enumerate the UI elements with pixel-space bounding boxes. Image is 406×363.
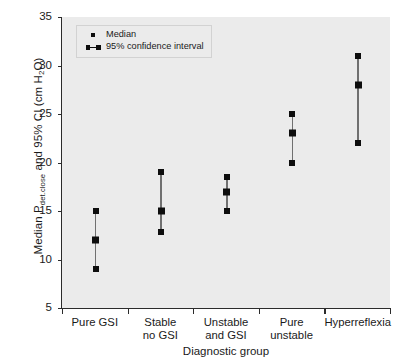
ci-lower-marker	[224, 208, 230, 214]
ci-lower-marker	[289, 160, 295, 166]
confidence-interval-line	[357, 56, 359, 143]
y-tick-label: 30	[26, 60, 52, 72]
ci-upper-marker	[93, 208, 99, 214]
y-axis-line	[61, 17, 62, 309]
data-point-group	[292, 17, 294, 308]
y-tick-label-group: 5101520253035	[26, 0, 52, 363]
x-category-label: Pure GSI	[62, 316, 128, 329]
data-point-group	[95, 17, 97, 308]
x-tick-mark	[62, 309, 63, 314]
median-marker	[158, 208, 165, 215]
x-tick-mark	[390, 309, 391, 314]
x-tick-mark	[128, 309, 129, 314]
x-category-label: Unstableand GSI	[193, 316, 259, 341]
x-tick-mark	[259, 309, 260, 314]
legend-item-confidence-interval: 95% confidence interval	[82, 41, 204, 53]
plot-area: Median 95% confidence interval	[62, 17, 390, 308]
y-tick-label: 15	[26, 205, 52, 217]
x-axis-line	[61, 308, 391, 309]
ci-upper-marker	[224, 174, 230, 180]
y-tick-label: 10	[26, 254, 52, 266]
y-tick-label: 5	[26, 302, 52, 314]
ci-upper-marker	[355, 53, 361, 59]
median-marker-icon	[82, 30, 104, 40]
confidence-interval-line	[292, 114, 294, 163]
x-category-label: Stableno GSI	[128, 316, 194, 341]
ci-lower-marker	[355, 140, 361, 146]
data-point-group	[226, 17, 228, 308]
x-tick-mark	[324, 309, 325, 314]
legend-label-median: Median	[106, 30, 136, 39]
ci-lower-marker	[158, 229, 164, 235]
y-tick-label: 35	[26, 11, 52, 23]
x-category-label: Pureunstable	[259, 316, 325, 341]
median-marker	[355, 81, 362, 88]
data-point-group	[357, 17, 359, 308]
confidence-interval-line	[160, 172, 162, 232]
y-tick-label: 25	[26, 108, 52, 120]
median-marker	[223, 188, 230, 195]
legend-label-confidence-interval: 95% confidence interval	[106, 42, 204, 51]
confidence-interval-marker-icon	[82, 42, 104, 52]
median-marker	[92, 237, 99, 244]
x-axis-title: Diagnostic group	[62, 345, 390, 357]
data-point-group	[160, 17, 162, 308]
legend-item-median: Median	[82, 29, 204, 41]
error-bar-chart: Median Pdet.close and 95% CI (cm H2O) 51…	[0, 0, 406, 363]
median-marker	[289, 130, 296, 137]
ci-upper-marker	[289, 111, 295, 117]
x-category-label: Hyperreflexia	[324, 316, 390, 329]
ci-upper-marker	[158, 169, 164, 175]
ci-lower-marker	[93, 266, 99, 272]
y-tick-label: 20	[26, 157, 52, 169]
x-tick-mark	[193, 309, 194, 314]
